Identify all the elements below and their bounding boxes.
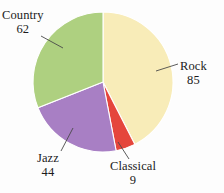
pie-label-country-value: 62: [2, 23, 44, 37]
pie-label-country-name: Country: [2, 9, 44, 23]
pie-label-rock-name: Rock: [180, 60, 207, 74]
pie-label-rock-value: 85: [180, 74, 207, 88]
pie-label-jazz-value: 44: [37, 166, 59, 180]
pie-label-country: Country 62: [2, 9, 44, 36]
pie-label-jazz: Jazz 44: [37, 152, 59, 179]
pie-label-classical-name: Classical: [110, 160, 156, 174]
pie-chart-figure: Country 62 Rock 85 Jazz 44 Classical 9: [0, 0, 224, 193]
pie-label-classical-value: 9: [110, 174, 156, 188]
pie-label-classical: Classical 9: [110, 160, 156, 187]
pie-slices: [33, 12, 173, 152]
pie-label-jazz-name: Jazz: [37, 152, 59, 166]
pie-label-rock: Rock 85: [180, 60, 207, 87]
